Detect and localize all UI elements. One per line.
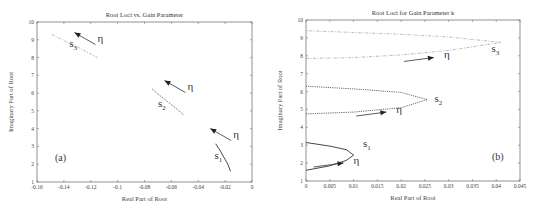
y-tick-label: 5 [31,108,34,114]
x-tick-label: -0.12 [85,184,97,190]
y-tick-label: 7 [31,72,34,78]
x-tick-label: 0.03 [444,183,454,189]
eta-label: η [188,80,194,92]
y-tick-label: 2 [31,161,34,167]
y-tick-label: 6 [31,90,34,96]
root-label-s1: s1 [363,137,371,152]
locus-s3 [306,31,501,59]
chart-title: Root Loci vs. Gain Parameter [106,11,184,18]
x-tick-label: -0.08 [139,184,151,190]
x-tick-label: -0.04 [193,184,205,190]
arrow-head-icon [74,33,80,38]
x-tick-label: 0.01 [349,183,359,189]
y-axis-label: Imaginary Part of Root [276,70,283,130]
y-tick-label: 9 [300,35,303,41]
y-tick-label: 3 [31,143,34,149]
x-tick-label: 0 [251,184,254,190]
arrow-head-icon [428,56,434,61]
eta-label: η [97,32,103,44]
x-tick-label: 0.015 [371,183,384,189]
y-tick-label: 1 [31,179,34,185]
x-tick-label: 0.045 [514,183,527,189]
panel-label: (b) [492,151,504,163]
eta-label: η [233,128,239,140]
y-tick-label: 6 [300,89,303,95]
locus-s2 [306,86,427,114]
eta-label: η [396,103,402,115]
root-label-s1: s1 [214,149,222,164]
y-tick-label: 7 [300,71,303,77]
x-tick-label: -0.1 [113,184,122,190]
x-tick-label: 0.02 [396,183,406,189]
x-axis-label: Real Part of Root [390,194,436,201]
x-tick-label: -0.02 [219,184,231,190]
y-tick-label: 3 [300,142,303,148]
x-tick-label: 0 [305,183,308,189]
arrow-head-icon [210,129,216,134]
y-tick-label: 8 [300,53,303,59]
locus-s1 [306,143,354,171]
eta-label: η [444,48,450,60]
panel-label: (a) [55,152,66,164]
x-tick-label: -0.14 [58,184,70,190]
locus-s2 [152,89,184,116]
y-axis-label: Imaginary Part of Root [7,72,14,132]
arrow-head-icon [380,110,386,115]
y-tick-label: 4 [300,124,303,130]
y-tick-label: 10 [298,17,304,23]
x-tick-label: 0.025 [419,183,432,189]
x-tick-label: 0.04 [491,183,501,189]
chart-title: Root Loci for Gain Parameter k [372,9,455,16]
x-tick-label: 0.005 [324,183,337,189]
x-tick-label: 0.035 [466,183,479,189]
figure: Root Loci vs. Gain ParameterReal Part of… [0,0,539,214]
y-tick-label: 9 [31,37,34,43]
y-tick-label: 2 [300,160,303,166]
x-tick-label: -0.06 [166,184,178,190]
y-tick-label: 8 [31,55,34,61]
y-tick-label: 4 [31,126,34,132]
root-label-s3: s3 [491,42,499,57]
y-tick-label: 5 [300,106,303,112]
y-tick-label: 10 [29,19,35,25]
root-label-s2: s2 [434,92,442,107]
y-tick-label: 1 [300,178,303,184]
eta-label: η [354,154,360,166]
root-label-s2: s2 [158,97,166,112]
x-axis-label: Real Part of Root [122,195,168,202]
root-label-s3: s3 [69,37,77,52]
arrow-head-icon [165,81,171,86]
